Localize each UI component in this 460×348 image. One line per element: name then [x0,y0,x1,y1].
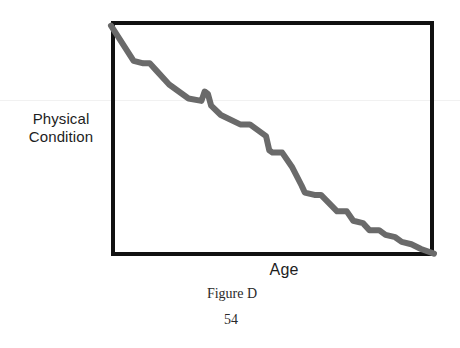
plot-area [111,21,434,256]
declining-trend-line [111,26,434,254]
y-axis-label-line-1: Physical [14,110,108,128]
figure-page: Physical Condition Age Figure D 54 [0,0,460,348]
y-axis-label-line-2: Condition [14,128,108,146]
y-axis-label: Physical Condition [14,110,108,146]
x-axis-label: Age [242,260,326,279]
page-number: 54 [196,312,266,328]
figure-caption: Figure D [172,286,292,302]
